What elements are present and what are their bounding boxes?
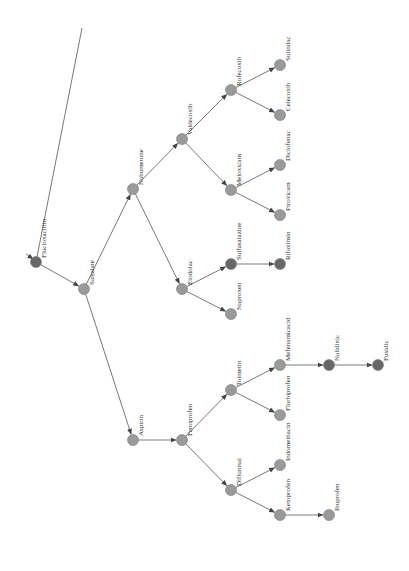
label-meloxicam: Meloxicam (235, 154, 243, 186)
edge-nabumetone-etodolac (135, 194, 179, 284)
label-rofecoxib: Rofecoxib (235, 56, 243, 86)
label-diflunisal: Diflunisal (235, 458, 243, 486)
label-sulindac: Sulindac (284, 37, 292, 62)
label-ibuprofen: Ibuprofen (333, 483, 341, 511)
edge-rofecoxib-celecoxib (236, 92, 275, 112)
edge-fenoprofen-diflunisal (186, 444, 227, 486)
nodes (31, 60, 384, 521)
label-aspirin: Aspirin (137, 415, 145, 437)
label-fenoprofen: Fenoprofen (186, 403, 194, 436)
label-nalidixic: Nalidixic (333, 335, 341, 361)
edge-flucloxacillin-salsalate (41, 265, 79, 286)
label-salsalate: Salsalate (88, 260, 96, 285)
label-flucloxacillin: Flucloxacillin (40, 219, 48, 258)
label-etodolac: Etodolac (186, 260, 194, 285)
label-celecoxib: Celecoxib (284, 82, 292, 111)
label-piroxicam: Piroxicam (284, 182, 292, 211)
label-flurbiprofen: Flurbiprofen (284, 375, 292, 411)
edge-diflunisal-ketoprofen (236, 492, 275, 512)
label-fusidic: Fusidic (382, 340, 390, 361)
label-ketoprofen: Ketoprofen (284, 479, 292, 511)
label-diclofenac: Diclofenac (284, 130, 292, 161)
drug-tree-diagram: FlucloxacillinSalsalateNabumetoneAspirin… (0, 0, 409, 571)
labels: FlucloxacillinSalsalateNabumetoneAspirin… (40, 37, 390, 512)
label-valdecoxib: Valdecoxib (186, 103, 194, 135)
edge-valdecoxib-meloxicam (186, 143, 227, 186)
label-sulfasalazine: Sulfasalazine (235, 223, 243, 260)
label-rifaximin: Rifaximin (284, 231, 292, 260)
label-mefenamicacid: Mefenamicacid (284, 317, 292, 361)
root-lines (26, 28, 82, 262)
edges (41, 68, 372, 515)
edge-salsalate-aspirin (86, 294, 131, 434)
edge-meloxicam-piroxicam (236, 192, 275, 212)
edge-tolmetin-flurbiprofen (236, 392, 275, 412)
label-nabumetone: Nabumetone (137, 149, 145, 185)
label-naproxen: Naproxen (235, 282, 243, 310)
label-tolmetin: Tolmetin (235, 360, 243, 386)
edge-etodolac-naproxen (187, 291, 226, 311)
label-indomethacin: Indomethacin (284, 422, 292, 461)
